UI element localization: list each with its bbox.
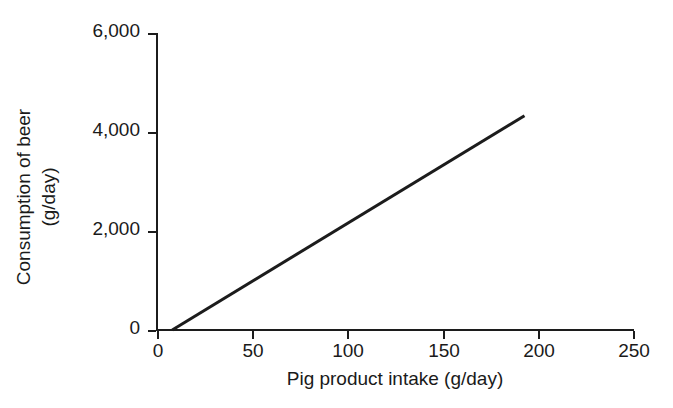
plot-series-layer	[0, 0, 673, 408]
chart-figure: 6,000 4,000 2,000 0 0 50 100 150 200 250…	[0, 0, 673, 408]
fitted-regression-line	[172, 116, 524, 330]
